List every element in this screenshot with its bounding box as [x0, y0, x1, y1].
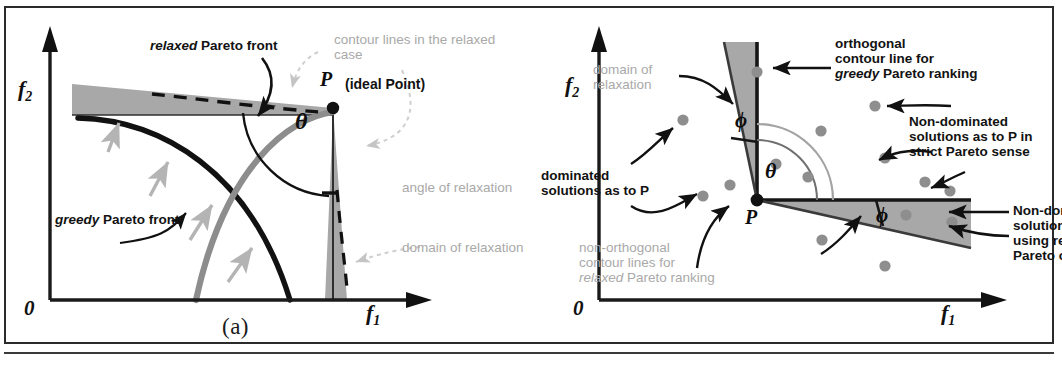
phi-symbol-upper: ϕ	[735, 108, 747, 133]
x-axis-label-a: f1	[366, 300, 380, 329]
figure-container: f2 f1 0 relaxed Pareto front greedy Pare…	[0, 0, 1062, 380]
relaxed-pareto-front-curve	[196, 112, 333, 300]
panel-a: f2 f1 0 relaxed Pareto front greedy Pare…	[0, 0, 531, 380]
solution-dot	[677, 114, 688, 125]
label-non-dominated-strict: Non-dominated solutions as to P in stric…	[909, 114, 1033, 159]
label-relaxed-pareto-front: relaxed Pareto front	[150, 38, 278, 53]
reference-point-marker-b	[751, 194, 764, 207]
origin-label-b: 0	[573, 296, 584, 321]
theta-symbol-b: θ	[765, 158, 776, 184]
solution-dot	[944, 185, 955, 196]
theta-angle-arc	[243, 113, 329, 196]
ideal-point-marker	[327, 102, 339, 114]
y-axis-label-b: f2	[565, 72, 579, 101]
label-non-dominated-relaxed: Non-dominated solutions as to P using re…	[1013, 203, 1062, 263]
label-domain-of-relaxation-b: domain of relaxation	[593, 62, 652, 92]
y-axis-arrowhead-b	[591, 26, 607, 52]
leader-contour-lines	[292, 52, 318, 88]
solution-dot	[724, 179, 735, 190]
phi-symbol-lower: ϕ	[876, 203, 888, 228]
solution-dot	[869, 100, 880, 111]
solution-dot	[900, 209, 911, 220]
solution-dot	[802, 171, 813, 182]
label-domain-of-relaxation-a: domain of relaxation	[402, 240, 524, 255]
theta-symbol-a: θ	[295, 108, 307, 135]
solution-dot	[751, 66, 762, 77]
label-contour-lines: contour lines in the relaxed case	[334, 32, 495, 62]
ideal-point-note: (ideal Point)	[345, 76, 425, 92]
label-dominated-solutions: dominated solutions as to P	[541, 168, 649, 198]
solution-dots-group	[677, 66, 957, 271]
x-axis-arrowhead	[406, 292, 432, 308]
origin-label-a: 0	[24, 296, 35, 321]
panel-b: f2 f1 0 domain of relaxation orthogonal …	[531, 0, 1062, 380]
x-axis-label-b: f1	[941, 300, 955, 329]
panel-caption-a: (a)	[222, 314, 249, 340]
reference-point-label-b: P	[745, 206, 757, 229]
solution-dot	[697, 190, 708, 201]
solution-dot	[816, 234, 827, 245]
leader-strict-3	[931, 172, 965, 188]
label-greedy-pareto-front: greedy Pareto front	[55, 212, 180, 227]
leader-relaxed-wedge	[821, 216, 861, 254]
ideal-point-label-a: P	[320, 68, 332, 91]
y-axis-arrowhead	[42, 26, 58, 52]
solution-dot	[815, 125, 826, 136]
solution-dot	[879, 260, 890, 271]
leader-strict-1	[887, 105, 951, 106]
leader-domain-relaxation-b	[679, 76, 733, 104]
leader-dominated-1	[631, 128, 673, 164]
y-axis-label-a: f2	[18, 76, 32, 105]
label-orthogonal-contour-line: orthogonal contour line for greedy Paret…	[835, 36, 978, 81]
solution-dot	[919, 176, 930, 187]
label-angle-of-relaxation: angle of relaxation	[402, 180, 512, 195]
x-axis-arrowhead-b	[981, 292, 1007, 308]
label-non-orthogonal-contour: non-orthogonal contour lines for relaxed…	[579, 240, 715, 285]
